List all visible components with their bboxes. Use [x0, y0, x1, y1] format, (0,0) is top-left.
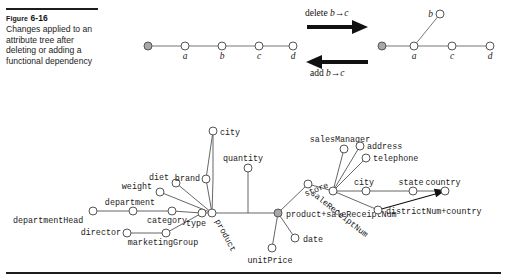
attribute-node [209, 127, 217, 135]
attribute-node [362, 187, 370, 195]
figure-label: Figure 6-16 [6, 13, 102, 23]
attribute-edge [206, 131, 213, 179]
attribute-node [129, 207, 137, 215]
attribute-edge [278, 184, 308, 213]
attribute-node [162, 229, 170, 237]
figure-label-word: Figure [6, 15, 28, 22]
attribute-edge [212, 179, 213, 213]
tree-edge [414, 14, 440, 46]
attribute-edge [206, 179, 212, 213]
attribute-node [362, 154, 370, 162]
attribute-edge [308, 184, 333, 191]
attribute-node-label: department [105, 198, 155, 208]
attribute-node-label: diet [149, 173, 169, 183]
figure-caption-block: Figure 6-16 Changes applied to an attrib… [6, 8, 102, 66]
attribute-node-label: districtNum+country [386, 207, 482, 217]
attribute-edge [160, 192, 212, 213]
fd-arrow-line [378, 193, 439, 210]
attribute-node [356, 142, 364, 150]
attribute-edge [333, 146, 360, 191]
page-bottom-rule [6, 272, 501, 274]
add-dependency: b→c [326, 68, 344, 78]
attribute-node-label: product [212, 218, 237, 254]
figure-label-number: 6-16 [30, 13, 47, 23]
attribute-node [409, 187, 417, 195]
attribute-node-label: category [147, 216, 187, 226]
attribute-node [208, 209, 216, 217]
add-arrow [306, 55, 368, 69]
attribute-node-label: city [220, 128, 240, 138]
attribute-node [198, 209, 206, 217]
figure-page: Figure 6-16 Changes applied to an attrib… [0, 0, 507, 280]
add-transform-label: add b→c [310, 68, 345, 78]
tree-node [436, 10, 444, 18]
tree-node-label: b [220, 51, 225, 61]
attribute-edge [278, 213, 295, 238]
attribute-node [123, 229, 131, 237]
delete-dependency: b→c [330, 8, 348, 18]
attribute-node [244, 164, 252, 172]
attribute-edge [176, 183, 212, 213]
attribute-edge [172, 211, 202, 213]
left-tree-nodes: abcd [144, 42, 297, 61]
attribute-node-label: product+saleReceiptNum [286, 210, 397, 220]
attribute-node-label: saleReceiptNum [308, 188, 370, 239]
attribute-node-label: unitPrice [247, 256, 292, 266]
delete-label-word: delete [305, 8, 328, 18]
attribute-node [172, 179, 180, 187]
tree-node [255, 42, 263, 50]
fd-arrow-head [434, 186, 447, 197]
tree-node [448, 42, 456, 50]
right-tree-nodes: abcd [378, 9, 494, 61]
tree-node [289, 42, 297, 50]
attribute-node [268, 244, 276, 252]
attribute-node [304, 180, 312, 188]
tree-node-label: c [450, 51, 455, 61]
attribute-node-label: country [425, 178, 460, 188]
attribute-node [329, 187, 337, 195]
attribute-root-node [274, 209, 282, 217]
attribute-node-label: state [398, 178, 423, 188]
attribute-node-label: quantity [223, 154, 263, 164]
attribute-node [340, 145, 348, 153]
attribute-edge [272, 213, 278, 248]
attribute-node-label: store [303, 181, 330, 200]
attribute-node [89, 207, 97, 215]
figure-caption-text: Changes applied to an attribute tree aft… [6, 24, 102, 66]
attribute-node-label: type [186, 219, 206, 229]
attribute-node-label: city [354, 178, 374, 188]
right-tree-edges [382, 14, 490, 46]
add-label-word: add [310, 68, 324, 78]
tree-node [181, 42, 189, 50]
tree-node-label: d [291, 51, 296, 61]
attribute-node [168, 207, 176, 215]
tree-node-label: b [428, 9, 433, 19]
tree-root-node [144, 42, 152, 50]
attribute-edge [333, 191, 378, 210]
attribute-node [202, 175, 210, 183]
attribute-node-label: marketingGroup [128, 238, 198, 248]
attribute-node-label: date [303, 235, 323, 245]
attribute-tree-edges [93, 131, 445, 248]
attribute-node-label: salesManager [310, 135, 370, 145]
attribute-node-label: departmentHead [13, 216, 83, 226]
tree-node-label: a [183, 51, 188, 61]
attribute-edge [333, 158, 366, 191]
attribute-node [441, 187, 449, 195]
tree-node [218, 42, 226, 50]
attribute-node-label: address [367, 142, 402, 152]
delete-transform-label: delete b→c [305, 8, 349, 18]
tree-node-label: a [412, 51, 417, 61]
attribute-node-label: director [81, 228, 121, 238]
attribute-node [156, 188, 164, 196]
tree-node-label: c [257, 51, 262, 61]
attribute-node [291, 234, 299, 242]
attribute-tree-nodes: departmentHeaddepartmentcategorydirector… [13, 127, 482, 266]
attribute-node-label: telephone [373, 154, 418, 164]
delete-arrow [307, 20, 368, 34]
attribute-edge [166, 213, 202, 233]
attribute-node-label: weight [122, 182, 152, 192]
caption-top-rule [6, 8, 98, 10]
tree-node [486, 42, 494, 50]
tree-root-node [378, 42, 386, 50]
